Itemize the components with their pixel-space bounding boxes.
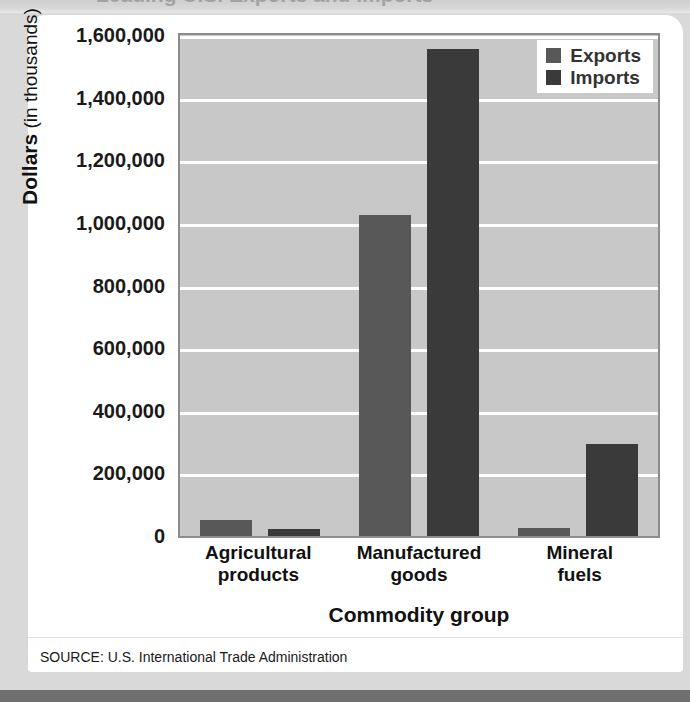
y-tick-label-1600000: 1,600,000 xyxy=(76,24,165,47)
y-tick-label-1200000: 1,200,000 xyxy=(76,149,165,172)
x-axis-title: Commodity group xyxy=(178,603,660,627)
y-tick-label-1000000: 1,000,000 xyxy=(76,211,165,234)
y-tick-label-0: 0 xyxy=(154,525,165,548)
y-tick-label-1400000: 1,400,000 xyxy=(76,86,165,109)
x-label-line-2: fuels xyxy=(499,564,660,586)
bar-group-agricultural-products xyxy=(180,35,339,536)
y-tick-label-800000: 800,000 xyxy=(93,274,165,297)
bar-groups xyxy=(180,35,658,536)
x-label-manufactured-goods: Manufacturedgoods xyxy=(339,542,500,586)
x-label-agricultural-products: Agriculturalproducts xyxy=(178,542,339,586)
source-note: SOURCE: U.S. International Trade Adminis… xyxy=(40,649,347,665)
bar-exports-manufactured-goods xyxy=(359,215,411,536)
x-label-line-1: Mineral xyxy=(499,542,660,564)
legend-item-imports: Imports xyxy=(546,68,641,87)
y-tick-label-600000: 600,000 xyxy=(93,337,165,360)
bar-exports-mineral-fuels xyxy=(518,528,570,536)
bar-exports-agricultural-products xyxy=(200,520,252,536)
exports-swatch-icon xyxy=(546,48,561,63)
x-label-line-2: goods xyxy=(339,564,500,586)
y-axis-tick-labels: 0200,000400,000600,000800,0001,000,0001,… xyxy=(28,33,173,538)
source-divider xyxy=(28,637,683,638)
bar-group-mineral-fuels xyxy=(499,35,658,536)
y-tick-label-200000: 200,000 xyxy=(93,462,165,485)
chart-legend: Exports Imports xyxy=(537,40,653,93)
y-axis-title-rest: (in thousands) xyxy=(20,8,41,134)
x-axis-category-labels: AgriculturalproductsManufacturedgoodsMin… xyxy=(178,542,660,586)
title-remnant: Leading U.S. Exports and Imports xyxy=(0,0,690,13)
bar-imports-agricultural-products xyxy=(268,529,320,536)
x-label-mineral-fuels: Mineralfuels xyxy=(499,542,660,586)
legend-item-exports: Exports xyxy=(546,46,641,65)
legend-label-imports: Imports xyxy=(570,68,640,87)
y-axis-title-bold: Dollars xyxy=(18,134,41,205)
legend-label-exports: Exports xyxy=(570,46,641,65)
bar-chart-plot-area: Exports Imports xyxy=(178,33,660,538)
y-tick-label-400000: 400,000 xyxy=(93,399,165,422)
y-axis-title: Dollars (in thousands) xyxy=(18,8,42,205)
bar-imports-mineral-fuels xyxy=(586,444,638,536)
chart-card: 0200,000400,000600,000800,0001,000,0001,… xyxy=(28,15,683,672)
bar-imports-manufactured-goods xyxy=(427,49,479,536)
x-label-line-1: Manufactured xyxy=(339,542,500,564)
x-label-line-2: products xyxy=(178,564,339,586)
title-remnant-text: Leading U.S. Exports and Imports xyxy=(96,0,433,7)
page-bottom-strip xyxy=(0,690,690,702)
imports-swatch-icon xyxy=(546,70,561,85)
bar-group-manufactured-goods xyxy=(339,35,498,536)
x-label-line-1: Agricultural xyxy=(178,542,339,564)
